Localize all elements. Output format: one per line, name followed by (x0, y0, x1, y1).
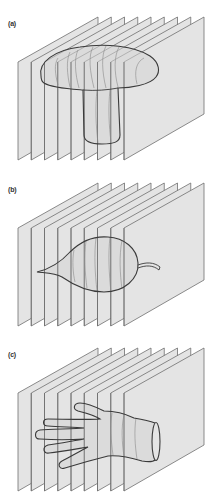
panel-b-leaf: (b) (0, 166, 217, 332)
hand-sliced-planes-illustration (0, 331, 217, 497)
mushroom-sliced-planes-illustration (0, 0, 217, 166)
panel-c-hand: (c) (0, 331, 217, 497)
leaf-sliced-planes-illustration (0, 166, 217, 332)
wrist-opening (152, 423, 160, 461)
panel-a-mushroom: (a) (0, 0, 217, 166)
